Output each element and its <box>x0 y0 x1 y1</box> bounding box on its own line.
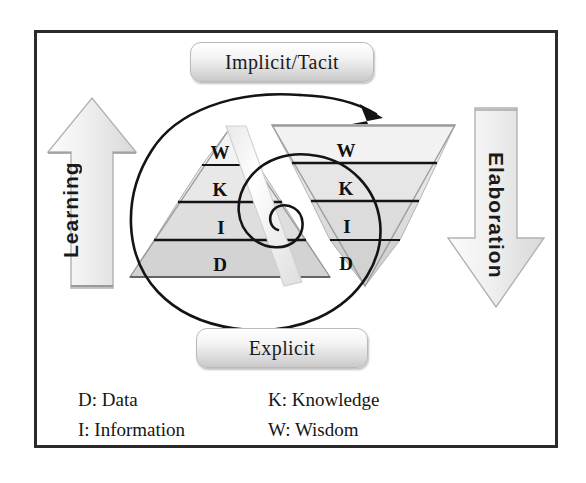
left-tier-data: D <box>209 254 231 276</box>
legend-item-information: I: Information <box>78 415 268 445</box>
legend-item-data: D: Data <box>78 385 268 415</box>
right-tier-wisdom: W <box>335 140 357 162</box>
legend-item-knowledge: K: Knowledge <box>268 385 458 415</box>
right-tier-knowledge: K <box>335 178 357 200</box>
spiral-arrowhead <box>300 95 383 124</box>
right-tier-information: I <box>336 216 358 238</box>
legend-item-wisdom: W: Wisdom <box>268 415 458 445</box>
elaboration-arrow-label: Elaboration <box>485 128 507 303</box>
learning-arrow-label: Learning <box>60 135 82 285</box>
right-tier-data: D <box>335 253 357 275</box>
explicit-label: Explicit <box>196 328 368 368</box>
left-tier-wisdom: W <box>209 142 231 164</box>
left-tier-knowledge: K <box>209 179 231 201</box>
left-tier-information: I <box>210 217 232 239</box>
diagram-canvas: Implicit/Tacit Explicit Learning Elabora… <box>0 0 586 483</box>
legend: D: Data K: Knowledge I: Information W: W… <box>78 385 458 445</box>
implicit-tacit-label: Implicit/Tacit <box>190 42 374 82</box>
